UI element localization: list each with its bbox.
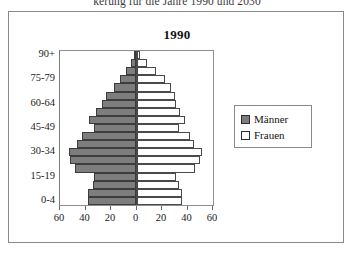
pyramid-bar-maenner	[96, 108, 137, 116]
pyramid-bar-frauen	[137, 173, 177, 181]
y-axis-tick-label: 15-19	[31, 171, 56, 181]
pyramid-bar-maenner	[70, 156, 136, 164]
y-axis-tick-label: 45-49	[31, 122, 56, 132]
x-axis-tick-label: 60	[207, 212, 218, 223]
pyramid-bar-frauen	[137, 59, 147, 67]
pyramid-bar-maenner	[93, 181, 136, 189]
pyramid-bar-frauen	[137, 148, 202, 156]
x-axis-tick-label: 40	[181, 212, 192, 223]
x-axis-tick	[212, 206, 213, 210]
x-axis-tick	[161, 206, 162, 210]
y-axis-tick-label: 30-34	[31, 146, 56, 156]
legend-swatch-maenner-icon	[241, 115, 250, 124]
x-axis-tick	[85, 206, 86, 210]
pyramid-bar-maenner	[82, 132, 137, 140]
pyramid-bar-frauen	[137, 83, 171, 91]
zero-axis-line	[136, 51, 137, 205]
pyramid-bar-frauen	[137, 100, 177, 108]
pyramid-bar-frauen	[137, 164, 196, 172]
pyramid-bar-maenner	[89, 116, 136, 124]
y-axis-labels: 0-415-1930-3445-4960-6475-7990+	[9, 50, 55, 206]
y-axis-tick-label: 60-64	[31, 98, 56, 108]
x-axis-tick-label: 20	[105, 212, 116, 223]
y-axis-tick-label: 0-4	[41, 195, 55, 205]
pyramid-bar-maenner	[69, 148, 137, 156]
figure-caption: kerung für die Jahre 1990 und 2030	[0, 0, 354, 8]
x-axis-ticks	[59, 206, 214, 211]
x-axis-tick-label: 20	[156, 212, 167, 223]
x-axis-tick-label: 40	[79, 212, 90, 223]
pyramid-bar-frauen	[137, 67, 156, 75]
pyramid-bar-frauen	[137, 181, 179, 189]
x-axis-tick-label: 0	[133, 212, 138, 223]
plot-area	[59, 50, 214, 206]
pyramid-bar-frauen	[137, 124, 179, 132]
y-axis-tick-label: 75-79	[31, 73, 56, 83]
pyramid-bar-frauen	[137, 75, 165, 83]
legend-label-maenner: Männer	[254, 113, 288, 125]
pyramid-bar-maenner	[126, 67, 136, 75]
x-axis-labels: 6040200204060	[9, 212, 345, 226]
pyramid-bar-maenner	[94, 173, 136, 181]
pyramid-bar-maenner	[106, 92, 137, 100]
pyramid-bar-frauen	[137, 108, 180, 116]
chart-frame: 1990 0-415-1930-3445-4960-6475-7990+ 604…	[8, 11, 344, 243]
pyramid-bar-frauen	[137, 92, 175, 100]
chart-title: 1990	[9, 27, 345, 43]
pyramid-bar-maenner	[120, 75, 137, 83]
pyramid-bar-frauen	[137, 189, 183, 197]
pyramid-bar-frauen	[137, 197, 183, 205]
x-axis-tick	[187, 206, 188, 210]
pyramid-bar-maenner	[77, 140, 137, 148]
chart-legend: Männer Frauen	[234, 105, 312, 148]
pyramid-bar-maenner	[88, 197, 136, 205]
legend-item-maenner: Männer	[241, 113, 305, 125]
pyramid-bar-frauen	[137, 156, 201, 164]
pyramid-bar-frauen	[137, 51, 141, 59]
x-axis-tick-label: 60	[54, 212, 65, 223]
legend-label-frauen: Frauen	[254, 129, 285, 141]
pyramid-bar-maenner	[114, 83, 137, 91]
pyramid-bar-frauen	[137, 116, 185, 124]
x-axis-tick	[136, 206, 137, 210]
pyramid-bar-maenner	[75, 164, 136, 172]
pyramid-bar-maenner	[88, 189, 136, 197]
legend-item-frauen: Frauen	[241, 129, 305, 141]
pyramid-bar-maenner	[102, 100, 136, 108]
pyramid-bar-maenner	[94, 124, 136, 132]
pyramid-bar-frauen	[137, 140, 194, 148]
x-axis-tick	[59, 206, 60, 210]
legend-swatch-frauen-icon	[241, 131, 250, 140]
x-axis-tick	[110, 206, 111, 210]
pyramid-bar-frauen	[137, 132, 191, 140]
y-axis-tick-label: 90+	[39, 49, 55, 59]
